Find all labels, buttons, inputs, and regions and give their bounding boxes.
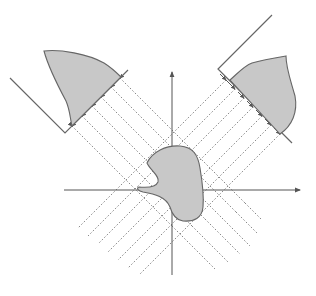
left-detector (10, 51, 128, 133)
right-detector (218, 15, 296, 143)
projection-diagram (0, 0, 316, 296)
object-shape (138, 146, 204, 221)
left-projection-profile (44, 51, 121, 126)
right-projection-profile (230, 56, 296, 134)
